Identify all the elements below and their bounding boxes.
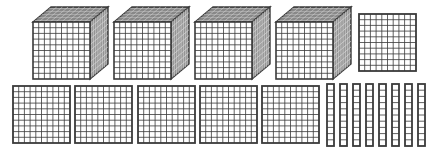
hundred-flat [359,14,416,71]
ten-rod [340,84,347,146]
thousand-cube [114,7,189,79]
hundred-flat [138,86,195,143]
ten-rod [405,84,412,146]
thousand-cube [195,7,270,79]
ten-rod [418,84,425,146]
hundred-flat [75,86,132,143]
base-ten-blocks-diagram [0,0,428,156]
hundred-flat [262,86,319,143]
ten-rod [327,84,334,146]
thousand-cube [276,7,351,79]
hundred-flat [200,86,257,143]
ten-rod [392,84,399,146]
ten-rods [327,84,425,146]
ten-rod [353,84,360,146]
ten-rod [379,84,386,146]
thousand-cube [33,7,108,79]
thousand-cubes [33,7,351,79]
ten-rod [366,84,373,146]
hundred-flat [13,86,70,143]
